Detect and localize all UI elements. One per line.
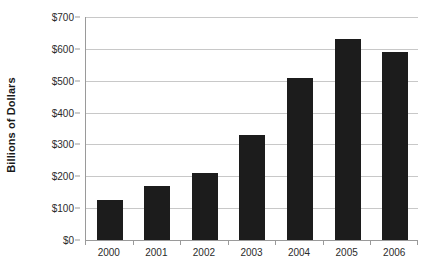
y-tick-mark <box>75 176 80 177</box>
y-axis-title-label: Billions of Dollars <box>5 77 17 172</box>
y-axis-tick-labels: $0$100$200$300$400$500$600$700 <box>22 17 80 240</box>
x-tick-label: 2001 <box>145 247 167 258</box>
y-tick-label: $200 <box>52 171 74 182</box>
bar-slot <box>371 17 419 240</box>
x-tick-mark <box>133 240 134 245</box>
y-tick-mark <box>75 144 80 145</box>
y-tick-mark <box>75 112 80 113</box>
y-tick-label: $0 <box>63 235 74 246</box>
y-tick-label: $600 <box>52 43 74 54</box>
bar-slot <box>86 17 134 240</box>
x-tick-mark <box>275 240 276 245</box>
bar[interactable] <box>144 186 170 240</box>
bar[interactable] <box>382 52 408 240</box>
y-tick-mark <box>75 208 80 209</box>
x-tick-mark <box>228 240 229 245</box>
x-tick-mark <box>180 240 181 245</box>
x-tick-label: 2005 <box>336 247 358 258</box>
x-tick-label: 2004 <box>288 247 310 258</box>
x-tick-label: 2006 <box>383 247 405 258</box>
x-tick-mark <box>323 240 324 245</box>
y-tick-mark <box>75 240 80 241</box>
bar[interactable] <box>97 200 123 240</box>
bar-slot <box>134 17 182 240</box>
x-tick-label: 2003 <box>240 247 262 258</box>
y-tick-mark <box>75 80 80 81</box>
y-tick-label: $400 <box>52 107 74 118</box>
bar-slot <box>276 17 324 240</box>
bar[interactable] <box>239 135 265 240</box>
y-tick-mark <box>75 48 80 49</box>
x-tick-mark <box>85 240 86 245</box>
x-axis-ticks <box>85 240 418 246</box>
y-tick-label: $700 <box>52 12 74 23</box>
bar[interactable] <box>287 78 313 240</box>
x-tick-label: 2002 <box>193 247 215 258</box>
bar-slot <box>229 17 277 240</box>
x-tick-mark <box>417 240 418 245</box>
x-tick-label: 2000 <box>98 247 120 258</box>
bar-slot <box>181 17 229 240</box>
y-tick-label: $500 <box>52 75 74 86</box>
bar[interactable] <box>335 39 361 240</box>
bar-chart: Billions of Dollars $0$100$200$300$400$5… <box>0 0 429 277</box>
bar-slot <box>324 17 372 240</box>
y-tick-label: $100 <box>52 203 74 214</box>
y-tick-mark <box>75 17 80 18</box>
bars-layer <box>86 17 418 240</box>
y-axis-title: Billions of Dollars <box>0 0 22 250</box>
y-tick-label: $300 <box>52 139 74 150</box>
plot-area <box>85 17 418 240</box>
x-axis-tick-labels: 2000200120022003200420052006 <box>85 247 418 265</box>
x-tick-mark <box>370 240 371 245</box>
bar[interactable] <box>192 173 218 240</box>
